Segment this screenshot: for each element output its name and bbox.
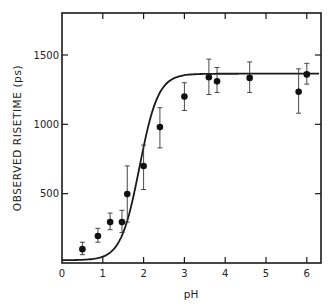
- data-point: [206, 59, 213, 94]
- point-marker: [206, 74, 213, 81]
- x-tick-label: 3: [181, 268, 187, 279]
- plot-frame: [62, 13, 321, 263]
- data-point: [295, 69, 302, 113]
- y-tick-label: 500: [40, 188, 59, 199]
- risetime-vs-ph-chart: 0123456 50010001500 pH OBSERVED RISETIME…: [0, 0, 334, 307]
- fit-curve: [62, 74, 319, 260]
- y-axis-ticks: 50010001500: [34, 50, 321, 200]
- point-marker: [119, 219, 126, 226]
- x-tick-label: 4: [222, 268, 228, 279]
- x-tick-label: 6: [304, 268, 310, 279]
- data-point: [107, 213, 114, 230]
- x-tick-label: 1: [100, 268, 106, 279]
- data-point: [214, 67, 221, 92]
- plot-border: [62, 13, 321, 263]
- point-marker: [214, 78, 221, 85]
- point-marker: [107, 219, 114, 226]
- y-tick-label: 1000: [34, 119, 59, 130]
- x-axis-ticks: 0123456: [59, 13, 310, 279]
- fit-line: [62, 74, 319, 260]
- data-point: [304, 63, 311, 84]
- data-point: [140, 145, 147, 189]
- y-axis-title: OBSERVED RISETIME (ps): [11, 65, 23, 211]
- point-marker: [140, 163, 147, 170]
- point-marker: [295, 88, 302, 95]
- data-point: [157, 108, 164, 148]
- point-marker: [157, 124, 164, 131]
- point-marker: [95, 233, 102, 240]
- x-axis-title: pH: [184, 288, 199, 300]
- point-marker: [181, 93, 188, 100]
- x-tick-label: 5: [263, 268, 269, 279]
- y-tick-label: 1500: [34, 50, 59, 61]
- point-marker: [124, 191, 131, 198]
- data-point: [79, 242, 86, 254]
- x-tick-label: 2: [140, 268, 146, 279]
- point-marker: [304, 71, 311, 78]
- x-tick-label: 0: [59, 268, 65, 279]
- point-marker: [246, 75, 253, 82]
- data-point: [246, 62, 253, 93]
- data-points: [79, 59, 310, 255]
- data-point: [95, 228, 102, 242]
- data-point: [181, 83, 188, 111]
- point-marker: [79, 246, 86, 253]
